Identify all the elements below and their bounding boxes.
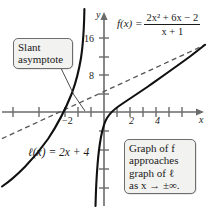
y-tick-label-8: 8 xyxy=(89,70,94,81)
slant-asymptote-figure: f(x) = 2x² + 6x − 2 x + 1 ℓ(x) = 2x + 4 … xyxy=(0,0,212,210)
fraction-numerator: 2x² + 6x − 2 xyxy=(144,12,200,23)
x-tick-label-neg2: −2 xyxy=(62,115,73,126)
callout-approach-line3: graph of ℓ xyxy=(129,167,191,179)
asymptote-equation-label: ℓ(x) = 2x + 4 xyxy=(28,146,89,158)
function-fraction: 2x² + 6x − 2 x + 1 xyxy=(144,12,200,37)
fraction-denominator: x + 1 xyxy=(144,26,200,37)
y-axis-label: y xyxy=(96,9,100,20)
x-axis-label: x xyxy=(199,114,203,125)
y-axis-arrow xyxy=(100,12,107,20)
function-name: f(x) = xyxy=(117,17,142,29)
callout-slant-asymptote: Slant asymptote xyxy=(13,38,73,69)
callout-slant-text: Slant asymptote xyxy=(18,41,63,65)
function-label: f(x) = 2x² + 6x − 2 x + 1 xyxy=(117,12,200,37)
curve-left-branch xyxy=(2,9,84,187)
x-tick-label-2: 2 xyxy=(129,115,134,126)
callout-approach-line4: as x → ±∞. xyxy=(129,179,191,191)
x-tick-label-4: 4 xyxy=(155,115,160,126)
y-tick-label-16: 16 xyxy=(84,33,94,44)
fraction-bar xyxy=(144,24,200,25)
callout-approach-line2: approaches xyxy=(129,154,191,166)
callout-leader-line xyxy=(58,62,85,111)
callout-approach-line1: Graph of f xyxy=(129,142,191,154)
callout-approach-note: Graph of f approaches graph of ℓ as x → … xyxy=(124,139,196,194)
